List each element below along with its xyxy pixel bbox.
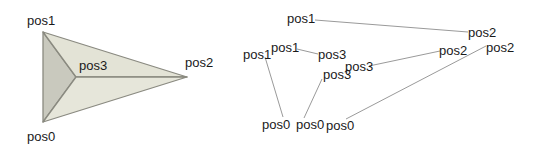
segment-line [315,20,468,32]
vertex-label-pos0: pos0 [27,129,55,144]
segment-line [297,49,318,54]
segment-label: pos2 [468,25,496,40]
segment-label: pos3 [318,47,346,62]
segment-label: pos1 [287,11,315,26]
segment-label: pos2 [439,43,467,58]
segment-label: pos1 [271,40,299,55]
vertex-label-pos1: pos1 [27,13,55,28]
vertex-label-pos3: pos3 [79,58,107,73]
segment-label: pos3 [323,67,351,82]
segment-label: pos2 [486,40,514,55]
segment-label: pos1 [243,47,271,62]
segment-label: pos0 [296,117,324,132]
pyramid-figure: pos0pos1pos2pos3 [27,13,213,144]
segment-line [369,51,440,66]
segment-line [265,57,283,117]
segment-label: pos0 [326,118,354,133]
segment-label: pos0 [262,117,290,132]
diagram-canvas: pos0pos1pos2pos3 pos1pos2pos1pos3pos3pos… [0,0,537,149]
segment-line [304,79,322,118]
segments-figure: pos1pos2pos1pos3pos3pos2pos1pos0pos3pos0… [243,11,514,133]
vertex-label-pos2: pos2 [185,55,213,70]
